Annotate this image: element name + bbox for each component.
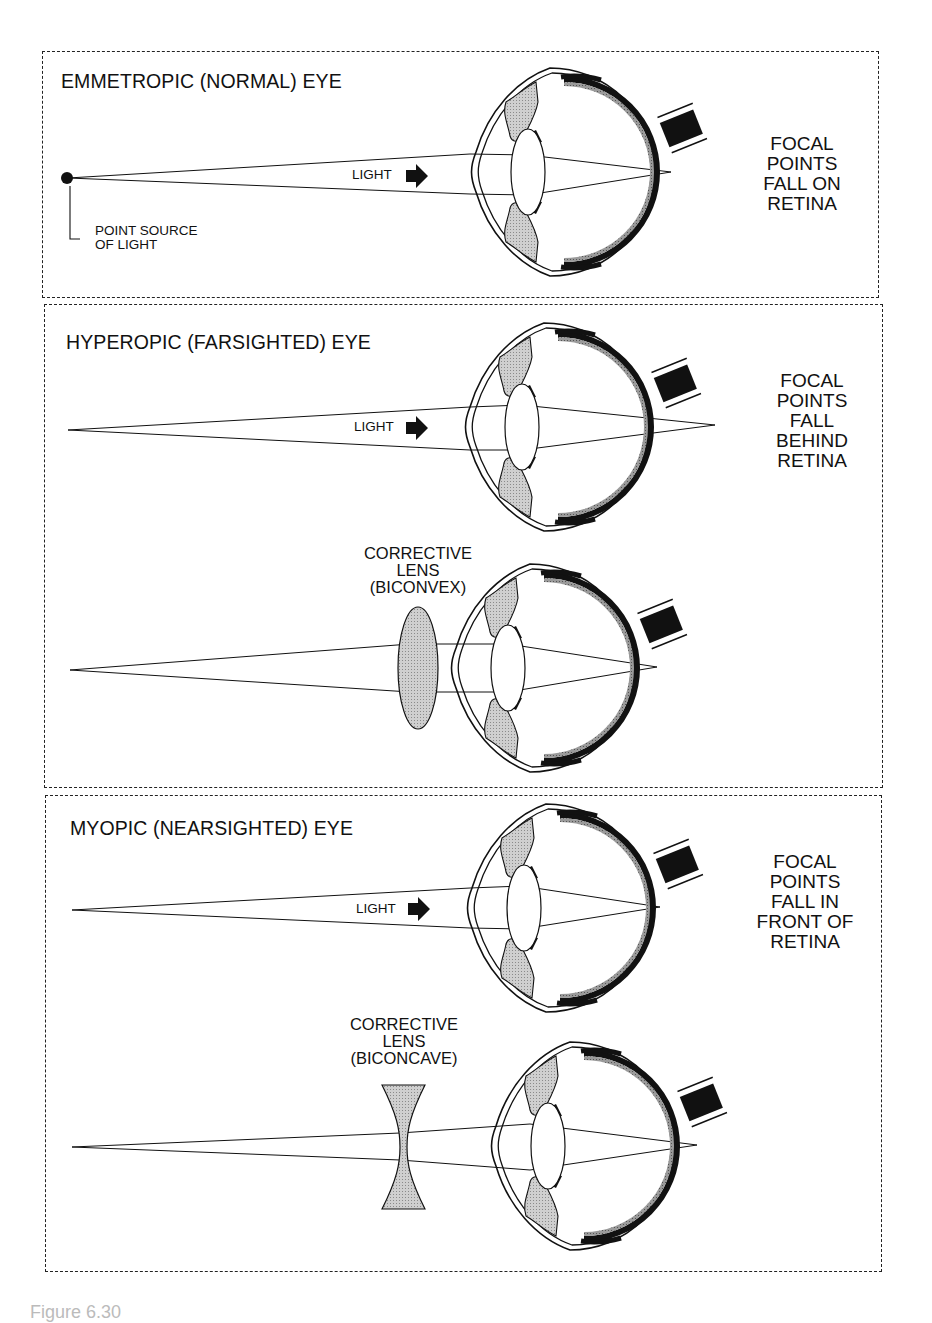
light-arrow-icon (408, 897, 430, 921)
result-label-line: BEHIND (752, 431, 872, 451)
result-label-line: RETINA (742, 194, 862, 214)
lens-label-line: (BICONCAVE) (334, 1050, 474, 1067)
corrective-lens-label-biconcave: CORRECTIVE LENS (BICONCAVE) (334, 1016, 474, 1067)
myopic-corrected-rays (72, 1124, 697, 1170)
panel-title-emmetropic: EMMETROPIC (NORMAL) EYE (61, 70, 342, 93)
result-label-line: RETINA (745, 932, 865, 952)
figure-caption: Figure 6.30 (30, 1302, 121, 1323)
light-arrow-icon (406, 164, 428, 188)
result-label-line: FALL ON (742, 174, 862, 194)
result-label-line: FALL (752, 411, 872, 431)
hyperopic-corrected-rays (70, 644, 657, 692)
result-label-line: FOCAL (752, 371, 872, 391)
result-label-emmetropic: FOCAL POINTS FALL ON RETINA (742, 134, 862, 214)
source-label-line: OF LIGHT (95, 238, 198, 252)
result-label-line: POINTS (745, 872, 865, 892)
result-label-myopic: FOCAL POINTS FALL IN FRONT OF RETINA (745, 852, 865, 952)
result-label-line: POINTS (752, 391, 872, 411)
corrective-lens-label-biconvex: CORRECTIVE LENS (BICONVEX) (348, 545, 488, 596)
lens-label-line: LENS (348, 562, 488, 579)
lens-label-line: LENS (334, 1033, 474, 1050)
point-source-icon (61, 172, 73, 184)
light-arrow-icon (406, 416, 428, 440)
result-label-line: FOCAL (745, 852, 865, 872)
lens-label-line: CORRECTIVE (334, 1016, 474, 1033)
lens-label-line: (BICONVEX) (348, 579, 488, 596)
result-label-line: FRONT OF (745, 912, 865, 932)
biconcave-lens-icon (382, 1085, 425, 1209)
result-label-line: POINTS (742, 154, 862, 174)
light-label: LIGHT (356, 901, 396, 916)
result-label-hyperopic: FOCAL POINTS FALL BEHIND RETINA (752, 371, 872, 471)
result-label-line: FALL IN (745, 892, 865, 912)
light-label: LIGHT (354, 419, 394, 434)
panel-title-myopic: MYOPIC (NEARSIGHTED) EYE (70, 817, 353, 840)
lens-label-line: CORRECTIVE (348, 545, 488, 562)
panel-title-hyperopic: HYPEROPIC (FARSIGHTED) EYE (66, 331, 371, 354)
source-label-line: POINT SOURCE (95, 224, 198, 238)
biconvex-lens-icon (398, 607, 438, 729)
result-label-line: FOCAL (742, 134, 862, 154)
source-leader-line (70, 186, 80, 239)
eye-myopic (468, 804, 703, 1012)
result-label-line: RETINA (752, 451, 872, 471)
eye-emmetropic (472, 68, 707, 276)
eye-hyperopic (466, 323, 701, 531)
point-source-label: POINT SOURCE OF LIGHT (95, 224, 198, 252)
light-label: LIGHT (352, 167, 392, 182)
